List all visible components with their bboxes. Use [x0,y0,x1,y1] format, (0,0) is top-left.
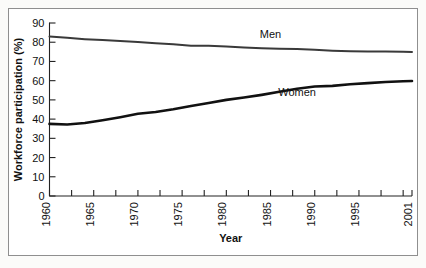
series-label-men: Men [260,28,281,40]
y-tick-label-group: 0102030405060708090 [32,17,44,202]
x-tick-label: 1985 [261,202,273,226]
y-tick-label: 0 [38,190,44,202]
x-tick-label: 1990 [305,202,317,226]
y-tick-label: 10 [32,171,44,183]
y-tick-label: 80 [32,36,44,48]
x-tick-label-group: 196019651970197519801985199019952001 [40,202,415,226]
axis-spines [50,23,413,197]
series-line-men [50,36,413,52]
x-tick-label: 1995 [349,202,361,226]
x-tick-label: 1975 [172,202,184,226]
y-tick-label: 30 [32,132,44,144]
y-tick-label: 20 [32,152,44,164]
x-tick-label: 1970 [128,202,140,226]
y-tick-label: 40 [32,113,44,125]
y-axis-title: Workforce participation (%) [12,37,24,181]
axes-group [50,23,413,197]
x-tick-label: 2001 [402,202,414,226]
y-tick-group [50,23,56,196]
line-chart: 0102030405060708090 19601965197019751980… [0,0,426,268]
x-tick-label: 1965 [84,202,96,226]
x-tick-label: 1980 [216,202,228,226]
series-group [50,36,413,124]
y-tick-label: 70 [32,55,44,67]
x-axis-title: Year [219,232,243,244]
series-label-women: Women [278,86,316,98]
y-tick-label: 90 [32,17,44,29]
x-tick-label: 1960 [40,202,52,226]
y-tick-label: 50 [32,94,44,106]
series-line-women [50,81,413,124]
x-tick-group [50,190,413,196]
series-annotation-group: MenWomen [260,28,316,98]
figure-canvas: 0102030405060708090 19601965197019751980… [0,0,426,268]
y-tick-label: 60 [32,75,44,87]
